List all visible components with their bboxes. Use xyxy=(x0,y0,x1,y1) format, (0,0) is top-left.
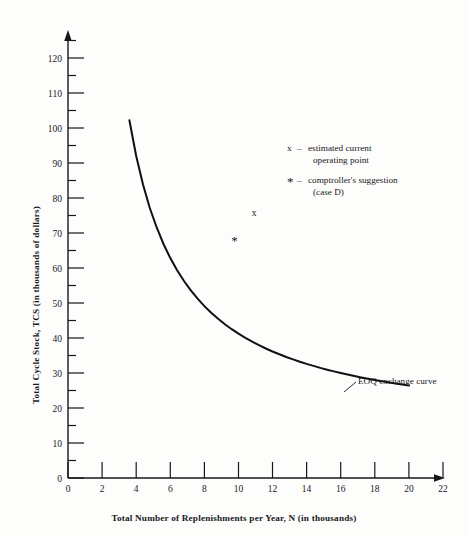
marker-comptroller-suggestion: * xyxy=(231,233,238,248)
y-axis-title: Total Cycle Stock, TCS (in thousands of … xyxy=(31,206,41,404)
y-ticklabel-50: 50 xyxy=(53,299,63,309)
legend-entry-comptroller-suggestion: * – comptroller's suggestion (case D) xyxy=(287,174,398,197)
legend-label-2-line1: comptroller's suggestion xyxy=(308,175,398,185)
x-ticklabel-16: 16 xyxy=(336,484,346,494)
x-axis-title: Total Number of Replenishments per Year,… xyxy=(111,513,356,523)
y-ticklabel-60: 60 xyxy=(53,264,63,274)
chart-legend: x – estimated current operating point * … xyxy=(287,143,398,197)
y-ticklabel-10: 10 xyxy=(53,439,63,449)
curve-callout: EOQ exchange curve xyxy=(344,376,437,392)
legend-marker-star: * xyxy=(287,174,294,189)
marker-estimated-current-operating-point: x xyxy=(252,208,257,218)
x-ticklabel-6: 6 xyxy=(168,484,173,494)
y-ticklabel-90: 90 xyxy=(53,159,63,169)
y-ticklabel-70: 70 xyxy=(53,229,63,239)
y-ticklabel-20: 20 xyxy=(53,404,63,414)
y-ticklabel-30: 30 xyxy=(53,369,63,379)
legend-marker-x: x xyxy=(287,143,292,153)
x-ticklabel-14: 14 xyxy=(302,484,312,494)
x-ticklabel-20: 20 xyxy=(404,484,414,494)
y-axis-arrow-icon xyxy=(64,30,72,41)
eoq-exchange-chart: 0 10 20 30 40 50 60 70 80 90 100 110 120 xyxy=(0,0,468,536)
x-ticklabel-4: 4 xyxy=(134,484,139,494)
legend-dash-1: – xyxy=(296,143,302,153)
legend-label-1-line2: operating point xyxy=(313,155,369,165)
y-ticklabel-40: 40 xyxy=(53,334,63,344)
x-ticklabel-12: 12 xyxy=(268,484,278,494)
x-ticklabel-2: 2 xyxy=(100,484,105,494)
x-ticklabel-22: 22 xyxy=(438,484,448,494)
curve-callout-leader-line xyxy=(344,382,356,392)
x-ticklabel-0: 0 xyxy=(66,484,71,494)
y-axis: 0 10 20 30 40 50 60 70 80 90 100 110 120 xyxy=(48,30,84,484)
legend-label-1-line1: estimated current xyxy=(308,143,372,153)
legend-label-2-line2: (case D) xyxy=(313,187,344,197)
chart-figure: 0 10 20 30 40 50 60 70 80 90 100 110 120 xyxy=(0,0,468,536)
y-ticklabel-110: 110 xyxy=(48,89,62,99)
legend-entry-estimated-current-operating-point: x – estimated current operating point xyxy=(287,143,372,165)
legend-dash-2: – xyxy=(296,175,302,185)
x-ticklabel-10: 10 xyxy=(234,484,244,494)
curve-callout-label: EOQ exchange curve xyxy=(358,376,437,386)
x-axis: 0 2 4 6 8 10 12 14 16 18 20 22 xyxy=(66,462,448,494)
y-ticklabel-100: 100 xyxy=(48,124,63,134)
x-ticklabel-8: 8 xyxy=(202,484,207,494)
y-ticklabel-0: 0 xyxy=(57,474,62,484)
x-ticklabel-18: 18 xyxy=(370,484,380,494)
y-ticklabel-80: 80 xyxy=(53,194,63,204)
y-ticklabel-120: 120 xyxy=(48,54,63,64)
